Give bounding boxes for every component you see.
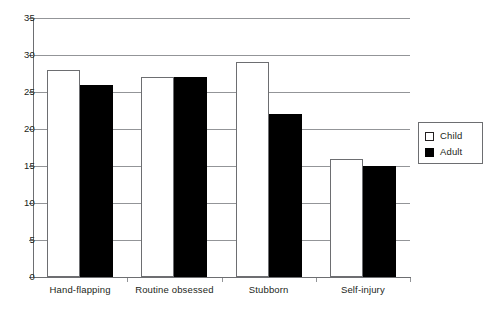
bar-adult-1 [174,77,207,277]
y-tick-label: 35 [24,13,35,23]
legend-swatch-child-icon [425,132,434,141]
y-tick-label: 30 [24,50,35,60]
y-tick-label: 20 [24,124,35,134]
x-tick-label: Self-injury [316,284,410,295]
bar-child-3 [330,159,363,277]
y-tick-label: 10 [24,198,35,208]
bar-chart: 05101520253035 Hand-flappingRoutine obse… [0,0,499,309]
x-tick-mark [410,278,411,282]
bar-child-2 [236,62,269,277]
x-tick-label: Hand-flapping [33,284,127,295]
legend-swatch-adult-icon [425,148,434,157]
x-tick-mark [316,278,317,282]
gridline [33,18,410,19]
legend-item-adult: Adult [425,144,482,160]
bar-adult-0 [80,85,113,277]
y-tick-label: 15 [24,161,35,171]
x-tick-label: Stubborn [222,284,316,295]
legend-label-adult: Adult [440,147,462,157]
x-tick-mark [222,278,223,282]
y-tick-label: 0 [30,272,35,282]
bar-child-1 [141,77,174,277]
bar-adult-2 [269,114,302,277]
gridline [33,55,410,56]
legend-item-child: Child [425,128,482,144]
x-tick-mark [127,278,128,282]
legend: Child Adult [418,122,483,164]
legend-label-child: Child [440,131,462,141]
bar-child-0 [47,70,80,277]
x-tick-label: Routine obsessed [127,284,221,295]
y-tick-label: 5 [30,235,35,245]
bar-adult-3 [363,166,396,277]
y-tick-label: 25 [24,87,35,97]
